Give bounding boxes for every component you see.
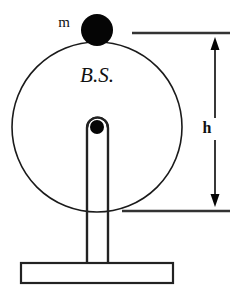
diagram-canvas: m B.S. h	[0, 0, 237, 295]
mass-label: m	[58, 14, 70, 30]
physics-diagram: m B.S. h	[0, 0, 237, 295]
pivot-point	[90, 120, 104, 134]
disc-label: B.S.	[80, 63, 114, 87]
height-label: h	[203, 119, 212, 136]
mass-point	[81, 14, 113, 46]
